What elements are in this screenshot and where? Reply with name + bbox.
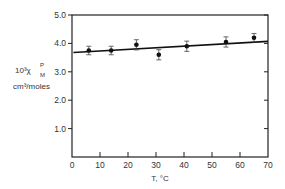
x-tick-label: 0 [70, 160, 75, 170]
y-tick-label: 2.0 [54, 95, 66, 105]
y-axis-label-line2: cm³/moles [13, 82, 50, 91]
x-axis-ticks: 010203040506070 [70, 152, 273, 170]
x-tick-label: 70 [263, 160, 273, 170]
y-tick-label: 3.0 [54, 67, 66, 77]
y-axis-label-line1: 10³χ [15, 66, 32, 75]
point-marker [134, 43, 139, 48]
x-tick-label: 50 [207, 160, 217, 170]
plot-frame [72, 15, 268, 157]
regression-line [73, 41, 268, 52]
plot-border [72, 15, 268, 157]
y-axis-label-sub: M [40, 72, 45, 78]
y-axis-ticks: 1.02.03.04.05.0 [54, 10, 268, 134]
fit-line [73, 41, 268, 52]
x-axis-label: T, °C [151, 174, 169, 183]
y-tick-label: 4.0 [54, 38, 66, 48]
point-marker [87, 48, 92, 53]
data-point [86, 46, 91, 55]
data-point [224, 37, 229, 47]
data-point [156, 50, 161, 60]
x-tick-label: 60 [235, 160, 245, 170]
data-point [252, 33, 257, 42]
chart: 1.02.03.04.05.0 010203040506070 10³χ P M… [0, 0, 285, 189]
y-tick-label: 5.0 [54, 10, 66, 20]
point-marker [185, 44, 190, 49]
x-tick-label: 30 [151, 160, 161, 170]
x-tick-label: 40 [179, 160, 189, 170]
point-marker [157, 52, 162, 57]
y-tick-label: 1.0 [54, 124, 66, 134]
data-point [109, 46, 114, 55]
point-marker [109, 48, 114, 53]
x-tick-label: 20 [123, 160, 133, 170]
x-tick-label: 10 [95, 160, 105, 170]
data-point [184, 41, 189, 51]
y-axis-label-sup: P [40, 62, 44, 68]
point-marker [252, 35, 257, 40]
y-axis-label: 10³χ P M cm³/moles [13, 62, 50, 91]
point-marker [224, 40, 229, 45]
